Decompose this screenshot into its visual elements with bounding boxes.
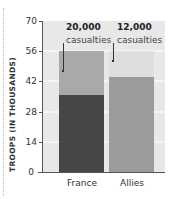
- y-tick-70: 70: [17, 16, 37, 26]
- y-tick-56: 56: [17, 46, 37, 56]
- y-tick-0: 0: [14, 167, 34, 177]
- y-axis-label: TROOPS (IN THOUSANDS): [8, 57, 17, 172]
- y-axis: [42, 21, 43, 173]
- bar-france-casualties: [59, 51, 104, 95]
- annotation-france-text: casualties: [66, 35, 111, 45]
- y-tick-mark-56: [39, 51, 43, 52]
- dotted-border: [3, 8, 4, 196]
- annotation-france-line: [63, 43, 64, 70]
- y-tick-mark-42: [39, 81, 43, 82]
- y-tick-mark-14: [39, 142, 43, 143]
- annotation-france-dot: [62, 70, 64, 72]
- annotation-allies-dot: [112, 60, 114, 62]
- bar-allies-remaining: [109, 77, 154, 172]
- x-label-allies: Allies: [110, 178, 154, 188]
- annotation-france-value: 20,000: [66, 22, 101, 32]
- bar-allies-casualties: [109, 51, 154, 77]
- y-tick-mark-70: [39, 21, 43, 22]
- bar-france-remaining: [59, 95, 104, 172]
- y-tick-42: 42: [17, 76, 37, 86]
- annotation-allies-value: 12,000: [117, 22, 152, 32]
- x-axis: [38, 172, 165, 173]
- y-tick-14: 14: [17, 137, 37, 147]
- y-tick-28: 28: [17, 107, 37, 117]
- y-tick-mark-28: [39, 112, 43, 113]
- annotation-allies-text: casualties: [117, 35, 162, 45]
- annotation-allies-line: [113, 43, 114, 60]
- x-label-france: France: [60, 178, 104, 188]
